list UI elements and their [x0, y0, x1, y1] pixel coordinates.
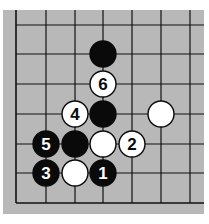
- black-stone-3: 3: [33, 160, 59, 186]
- move-number: 6: [98, 75, 107, 94]
- move-number: 4: [70, 105, 80, 124]
- white-stone: [90, 131, 116, 157]
- black-stone-1: 1: [90, 160, 116, 186]
- white-stone-4: 4: [62, 101, 88, 127]
- move-number: 3: [41, 164, 50, 183]
- black-stone: [62, 131, 88, 157]
- white-stone: [148, 101, 174, 127]
- black-stone: [90, 101, 116, 127]
- white-stone: [62, 160, 88, 186]
- move-number: 2: [127, 135, 136, 154]
- white-stone-2: 2: [119, 131, 145, 157]
- move-number: 5: [41, 135, 50, 154]
- black-stone: [90, 41, 116, 67]
- move-number: 1: [98, 164, 107, 183]
- black-stone-5: 5: [33, 131, 59, 157]
- white-stone-6: 6: [90, 71, 116, 97]
- go-board: 645231: [0, 0, 209, 224]
